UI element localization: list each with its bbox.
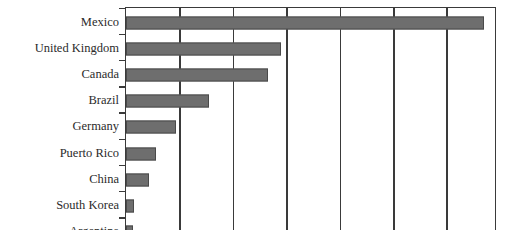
bar-row [126, 62, 497, 88]
bar-row [126, 219, 497, 230]
bar-row [126, 193, 497, 219]
bar [126, 68, 268, 81]
bar-chart: MexicoUnited KingdomCanadaBrazilGermanyP… [0, 0, 531, 230]
category-label: United Kingdom [4, 42, 119, 55]
category-label: South Korea [4, 199, 119, 212]
bar [126, 42, 281, 55]
axis-tick [119, 217, 126, 219]
bar [126, 147, 156, 160]
category-label: Argentina [4, 225, 119, 230]
category-label: Germany [4, 120, 119, 133]
bar [126, 95, 209, 108]
bar-row [126, 114, 497, 140]
axis-tick [119, 112, 126, 114]
axis-tick [119, 34, 126, 36]
axis-tick [119, 86, 126, 88]
bar [126, 16, 484, 29]
bar [126, 121, 176, 134]
category-axis-labels: MexicoUnited KingdomCanadaBrazilGermanyP… [0, 7, 119, 230]
category-label: Mexico [4, 16, 119, 29]
bar [126, 173, 149, 186]
axis-tick [119, 191, 126, 193]
axis-tick [119, 60, 126, 62]
axis-tick [119, 139, 126, 141]
bar-row [126, 167, 497, 193]
category-label: Canada [4, 68, 119, 81]
bar-row [126, 141, 497, 167]
category-label: China [4, 173, 119, 186]
bar-row [126, 10, 497, 36]
axis-tick [119, 8, 126, 10]
bar-row [126, 36, 497, 62]
category-label: Puerto Rico [4, 147, 119, 160]
bar [126, 199, 134, 212]
plot-area [125, 7, 496, 230]
bar [126, 226, 133, 230]
bar-row [126, 88, 497, 114]
category-label: Brazil [4, 94, 119, 107]
axis-tick [119, 165, 126, 167]
